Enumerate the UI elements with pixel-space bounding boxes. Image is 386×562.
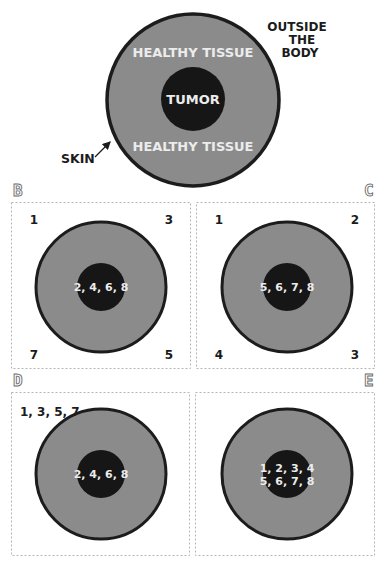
panel-e-letter: E xyxy=(364,371,374,390)
panel-c-beam-top-right: 2 xyxy=(351,213,359,227)
outside-label-line3: BODY xyxy=(281,46,318,60)
skin-arrow-icon xyxy=(95,142,110,157)
panel-e: E 1, 2, 3, 4 5, 6, 7, 8 xyxy=(196,371,375,556)
panel-c-beam-bottom-left: 4 xyxy=(215,348,223,362)
panel-b-beam-top-right: 3 xyxy=(165,213,173,227)
panel-d-beam-top-left: 1, 3, 5, 7 xyxy=(20,405,80,419)
panel-b: B 2, 4, 6, 8 1 3 7 5 xyxy=(12,181,191,369)
panel-b-letter: B xyxy=(13,181,23,200)
panel-d-letter: D xyxy=(13,371,23,390)
panel-c-beam-top-left: 1 xyxy=(215,213,223,227)
panel-b-beam-bottom-right: 5 xyxy=(165,348,173,362)
panel-c-letter: C xyxy=(364,181,374,200)
panel-d-tumor-beams: 2, 4, 6, 8 xyxy=(74,468,129,481)
panel-b-beam-top-left: 1 xyxy=(30,213,38,227)
panel-c-beam-bottom-right: 3 xyxy=(351,348,359,362)
healthy-tissue-top-label: HEALTHY TISSUE xyxy=(133,45,254,60)
panel-d: D 2, 4, 6, 8 1, 3, 5, 7 xyxy=(12,371,190,556)
healthy-tissue-bottom-label: HEALTHY TISSUE xyxy=(133,139,254,154)
skin-label: SKIN xyxy=(61,151,95,166)
tumor-label: TUMOR xyxy=(166,92,219,107)
outside-label-line1: OUTSIDE xyxy=(267,20,326,34)
main-figure: HEALTHY TISSUE TUMOR HEALTHY TISSUE OUTS… xyxy=(61,14,327,186)
panel-c: C 5, 6, 7, 8 1 2 4 3 xyxy=(197,181,375,369)
outside-label-line2: THE xyxy=(289,33,315,47)
panel-e-tumor-beams-line1: 1, 2, 3, 4 xyxy=(260,462,315,475)
panel-c-tumor-beams: 5, 6, 7, 8 xyxy=(260,281,315,294)
diagram-canvas: HEALTHY TISSUE TUMOR HEALTHY TISSUE OUTS… xyxy=(0,0,386,562)
panel-b-tumor-beams: 2, 4, 6, 8 xyxy=(74,281,129,294)
panel-e-tumor-beams-line2: 5, 6, 7, 8 xyxy=(260,475,315,488)
panel-b-beam-bottom-left: 7 xyxy=(30,348,38,362)
